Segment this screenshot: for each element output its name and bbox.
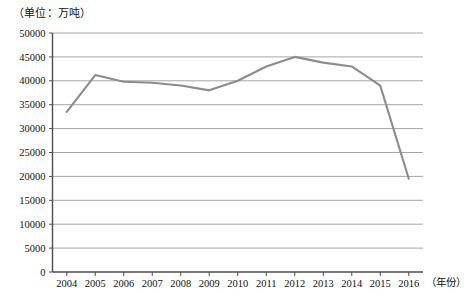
x-tick-label: 2016 xyxy=(398,278,419,289)
gridlines xyxy=(53,33,424,248)
y-tick-label: 20000 xyxy=(19,171,45,182)
y-tick-label: 40000 xyxy=(19,75,45,86)
y-tick-label: 50000 xyxy=(19,28,45,39)
x-axis-title: （年份） xyxy=(426,276,466,288)
data-series-line xyxy=(67,57,409,179)
x-tick-label: 2007 xyxy=(142,278,163,289)
x-tick-label: 2015 xyxy=(370,278,391,289)
line-chart-plot: 0500010000150002000025000300003500040000… xyxy=(0,0,470,304)
x-axis-tick-labels: 2004200520062007200820092010201120122013… xyxy=(56,278,419,289)
y-tick-label: 45000 xyxy=(19,52,45,63)
x-tick-label: 2011 xyxy=(256,278,277,289)
x-tick-label: 2005 xyxy=(85,278,106,289)
x-tick-label: 2010 xyxy=(227,278,248,289)
x-tick-label: 2013 xyxy=(313,278,334,289)
y-tick-label: 5000 xyxy=(25,243,46,254)
x-tick-label: 2009 xyxy=(199,278,220,289)
y-tick-label: 35000 xyxy=(19,99,45,110)
y-tick-label: 15000 xyxy=(19,195,45,206)
x-tick-label: 2008 xyxy=(170,278,191,289)
figure-caption xyxy=(0,295,470,304)
chart-figure: （单位：万吨） 05000100001500020000250003000035… xyxy=(0,0,470,304)
x-tick-label: 2012 xyxy=(284,278,305,289)
y-tick-label: 25000 xyxy=(19,147,45,158)
x-tick-label: 2004 xyxy=(56,278,78,289)
y-tick-label: 10000 xyxy=(19,219,45,230)
y-axis-tick-labels: 0500010000150002000025000300003500040000… xyxy=(19,28,45,278)
y-tick-label: 0 xyxy=(40,267,45,278)
x-tick-label: 2006 xyxy=(113,278,134,289)
x-tick-label: 2014 xyxy=(341,278,363,289)
y-tick-label: 30000 xyxy=(19,123,45,134)
